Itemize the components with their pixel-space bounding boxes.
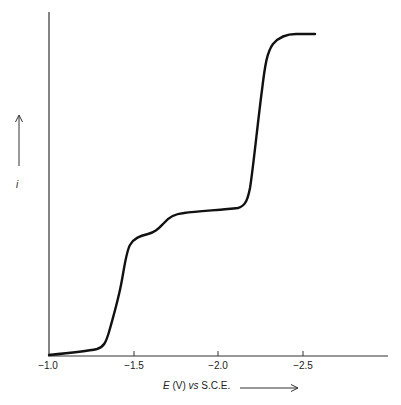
x-label-vs: vs [189,380,199,391]
y-axis-label: i [16,179,18,190]
x-label-reference: S.C.E. [199,380,231,391]
polarogram-plot [0,0,401,405]
x-ticks [134,351,303,356]
y-direction-arrow-icon [16,115,23,166]
polarogram-curve [49,34,315,355]
x-axis-label: E (V) vs S.C.E. [163,380,230,391]
x-label-symbol: E [163,380,170,391]
x-tick-label: −2.5 [293,360,313,371]
x-label-unit: (V) [170,380,189,391]
x-tick-label: −1.5 [124,360,144,371]
x-tick-label: −2.0 [208,360,228,371]
x-tick-label: −1.0 [38,360,58,371]
x-direction-arrow-icon [240,385,298,392]
